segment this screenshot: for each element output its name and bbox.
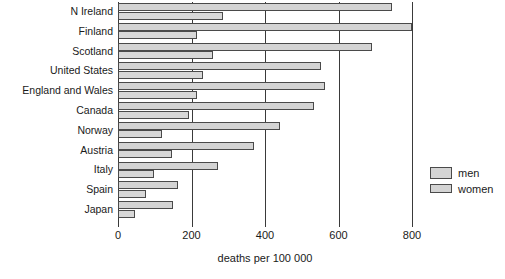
gridline-800: [412, 2, 413, 220]
category-label: Canada: [0, 105, 113, 116]
bar-men: [118, 122, 280, 130]
bar-men: [118, 142, 254, 150]
legend-label-men: men: [458, 167, 479, 179]
gridline-600: [339, 2, 340, 220]
category-axis-labels: N IrelandFinlandScotlandUnited StatesEng…: [0, 2, 113, 220]
legend-label-women: women: [458, 183, 493, 195]
bar-women: [118, 51, 213, 59]
category-label: England and Wales: [0, 85, 113, 96]
bar-men: [118, 23, 412, 31]
legend-item-women: women: [430, 182, 500, 195]
bar-men: [118, 43, 372, 51]
legend-swatch-women-icon: [430, 184, 452, 193]
bar-women: [118, 170, 154, 178]
plot-area: [118, 2, 412, 220]
x-tick-600: [339, 220, 340, 227]
legend-swatch-men-icon: [430, 167, 452, 179]
x-tick-label: 400: [245, 229, 285, 241]
bar-men: [118, 102, 314, 110]
legend-item-men: men: [430, 166, 500, 179]
bar-women: [118, 190, 146, 198]
gridline-400: [265, 2, 266, 220]
x-tick-200: [192, 220, 193, 227]
bar-men: [118, 82, 325, 90]
x-tick-800: [412, 220, 413, 227]
bar-women: [118, 130, 162, 138]
category-label: Spain: [0, 184, 113, 195]
category-label: Austria: [0, 145, 113, 156]
category-label: Finland: [0, 26, 113, 37]
bar-men: [118, 62, 321, 70]
x-tick-label: 800: [392, 229, 432, 241]
category-label: Italy: [0, 164, 113, 175]
category-label: United States: [0, 65, 113, 76]
category-label: Scotland: [0, 46, 113, 57]
bar-women: [118, 71, 203, 79]
bar-chart: N IrelandFinlandScotlandUnited StatesEng…: [0, 0, 505, 279]
bar-women: [118, 12, 223, 20]
bar-men: [118, 3, 392, 11]
x-tick-label: 0: [98, 229, 138, 241]
category-label: N Ireland: [0, 6, 113, 17]
bar-women: [118, 210, 135, 218]
bar-women: [118, 111, 189, 119]
x-axis-title: deaths per 100 000: [118, 252, 412, 264]
x-tick-label: 200: [172, 229, 212, 241]
category-label: Norway: [0, 125, 113, 136]
bar-men: [118, 181, 178, 189]
bar-women: [118, 91, 197, 99]
bar-men: [118, 201, 173, 209]
bar-women: [118, 150, 172, 158]
x-tick-0: [118, 220, 119, 227]
x-tick-label: 600: [319, 229, 359, 241]
bar-women: [118, 31, 197, 39]
legend: men women: [430, 166, 500, 198]
bar-men: [118, 162, 218, 170]
x-tick-400: [265, 220, 266, 227]
category-label: Japan: [0, 204, 113, 215]
